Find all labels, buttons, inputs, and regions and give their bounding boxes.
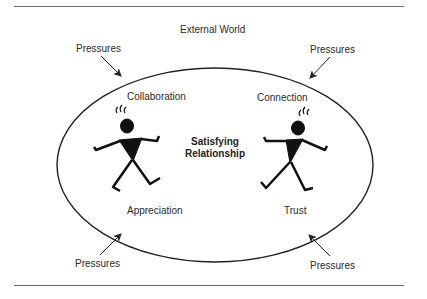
appreciation-label: Appreciation bbox=[127, 205, 183, 216]
person-right-icon bbox=[261, 107, 327, 190]
trust-label: Trust bbox=[284, 205, 306, 216]
pressures-top-left-label: Pressures bbox=[76, 43, 121, 54]
person-left-icon bbox=[94, 105, 160, 191]
relationship-ellipse bbox=[57, 68, 373, 262]
satisfying-relationship-label: Satisfying Relationship bbox=[175, 136, 255, 160]
pressures-top-right-label: Pressures bbox=[310, 44, 355, 55]
arrow-top-left bbox=[101, 56, 121, 76]
arrow-top-right bbox=[310, 57, 330, 78]
external-world-label: External World bbox=[180, 24, 245, 35]
center-label-line2: Relationship bbox=[175, 148, 255, 160]
collaboration-label: Collaboration bbox=[127, 91, 186, 102]
center-label-line1: Satisfying bbox=[175, 136, 255, 148]
connection-label: Connection bbox=[257, 92, 308, 103]
pressures-bottom-left-label: Pressures bbox=[75, 258, 120, 269]
pressures-bottom-right-label: Pressures bbox=[310, 260, 355, 271]
